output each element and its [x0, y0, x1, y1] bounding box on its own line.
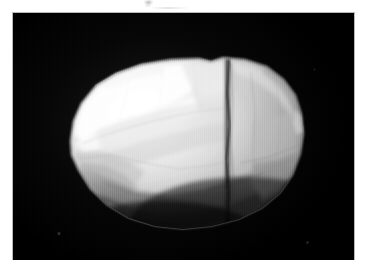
- page-sheet: [0, 0, 370, 274]
- scan-artifact-smudge: [144, 0, 153, 6]
- scan-artifact-band: [150, 7, 190, 9]
- figure-frame: [13, 13, 354, 260]
- bottom-margin: [0, 260, 370, 274]
- shape-model-body: [13, 13, 354, 260]
